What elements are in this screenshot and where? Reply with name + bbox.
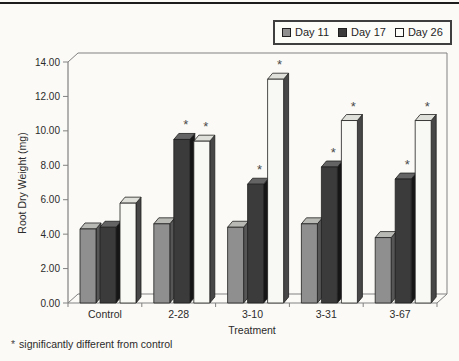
x-category-label: 3-31 — [316, 308, 337, 320]
significance-asterisk: * — [183, 117, 188, 132]
bar-day-11-3-67 — [375, 232, 396, 303]
bar-front-face — [80, 229, 96, 303]
bar-day-11-2-28 — [154, 218, 175, 303]
bar-front-face — [341, 121, 357, 303]
bar-day-26-3-67 — [415, 115, 436, 303]
bar-chart-3d: 0.002.004.006.008.0010.0012.0014.00Contr… — [0, 0, 459, 361]
y-tick-label: 2.00 — [41, 263, 61, 274]
bar-day-17-3-31 — [321, 161, 342, 303]
significance-asterisk: * — [203, 119, 208, 134]
bar-front-face — [248, 184, 264, 303]
legend-label: Day 17 — [351, 27, 386, 38]
significance-asterisk: * — [257, 162, 262, 177]
x-category-label: 3-67 — [390, 308, 411, 320]
y-tick-label: 10.00 — [35, 125, 60, 136]
footnote-text: significantly different from control — [19, 338, 172, 350]
bar-front-face — [120, 203, 136, 303]
bar-day-17-control — [100, 221, 121, 303]
bar-day-17-2-28 — [174, 133, 195, 303]
bar-front-face — [375, 238, 391, 303]
bar-day-11-3-10 — [228, 221, 249, 303]
bar-day-26-3-31 — [341, 115, 362, 303]
y-tick-label: 0.00 — [41, 298, 61, 309]
bar-side-face — [357, 115, 362, 303]
bar-front-face — [100, 227, 116, 303]
bar-front-face — [228, 227, 244, 303]
y-tick-label: 12.00 — [35, 91, 60, 102]
bar-day-17-3-67 — [395, 173, 416, 303]
x-category-label: 2-28 — [168, 308, 189, 320]
significance-asterisk: * — [351, 99, 356, 114]
legend-swatch-icon — [282, 28, 291, 37]
bar-front-face — [268, 79, 284, 303]
bar-front-face — [174, 139, 190, 303]
figure-page: 0.002.004.006.008.0010.0012.0014.00Contr… — [0, 0, 459, 361]
y-axis-title: Root Dry Weight (mg) — [16, 132, 28, 233]
legend-swatch-icon — [395, 28, 404, 37]
bar-side-face — [431, 115, 436, 303]
bar-day-11-3-31 — [301, 218, 322, 303]
legend-label: Day 11 — [295, 27, 329, 38]
legend-swatch-icon — [338, 28, 347, 37]
legend-item-day-17: Day 17 — [338, 27, 386, 38]
bar-front-face — [301, 224, 317, 303]
bar-day-26-3-10 — [268, 73, 289, 303]
x-axis-title: Treatment — [228, 324, 275, 336]
x-category-label: 3-10 — [242, 308, 263, 320]
y-tick-label: 14.00 — [35, 57, 60, 68]
significance-asterisk: * — [277, 57, 282, 72]
bar-day-11-control — [80, 223, 101, 303]
significance-footnote: *significantly different from control — [11, 338, 172, 350]
significance-asterisk: * — [425, 99, 430, 114]
bar-side-face — [210, 135, 215, 303]
bar-day-26-control — [120, 197, 141, 303]
bar-day-17-3-10 — [248, 178, 269, 303]
legend-item-day-26: Day 26 — [395, 27, 443, 38]
y-tick-label: 8.00 — [41, 160, 61, 171]
y-tick-label: 6.00 — [41, 194, 61, 205]
bar-side-face — [136, 197, 141, 303]
legend-item-day-11: Day 11 — [282, 27, 329, 38]
legend: Day 11Day 17Day 26 — [273, 20, 452, 45]
significance-asterisk: * — [331, 145, 336, 160]
bar-day-26-2-28 — [194, 135, 215, 303]
legend-label: Day 26 — [408, 27, 443, 38]
y-tick-label: 4.00 — [41, 229, 61, 240]
footnote-asterisk: * — [11, 338, 15, 350]
significance-asterisk: * — [405, 157, 410, 172]
bar-front-face — [154, 224, 170, 303]
x-category-label: Control — [88, 308, 122, 320]
bar-front-face — [194, 141, 210, 303]
bar-front-face — [321, 167, 337, 303]
bar-front-face — [395, 179, 411, 303]
bar-front-face — [415, 121, 431, 303]
bar-side-face — [284, 73, 289, 303]
